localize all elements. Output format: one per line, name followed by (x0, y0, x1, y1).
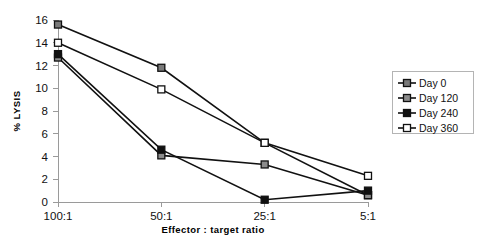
legend-marker (404, 80, 411, 87)
data-point-marker (55, 51, 62, 58)
x-tick-label: 5:1 (360, 210, 376, 222)
y-tick-label: 4 (42, 151, 49, 163)
data-point-marker (55, 21, 62, 28)
legend-marker (404, 110, 411, 117)
legend-label: Day 360 (419, 122, 458, 134)
legend-label: Day 120 (419, 92, 458, 104)
data-point-marker (55, 39, 62, 46)
data-point-marker (158, 86, 165, 93)
data-point-marker (261, 139, 268, 146)
series-line (58, 54, 368, 200)
series-line (58, 43, 368, 176)
legend-label: Day 0 (419, 77, 447, 89)
legend-marker (404, 125, 411, 132)
y-tick-label: 8 (42, 105, 48, 117)
y-tick-label: 6 (42, 128, 48, 140)
x-axis-ticks (58, 202, 368, 207)
x-tick-label: 50:1 (150, 210, 172, 222)
data-point-marker (261, 196, 268, 203)
data-point-marker (365, 187, 372, 194)
x-tick-label: 100:1 (44, 210, 73, 222)
legend-marker (404, 95, 411, 102)
y-axis-title: % LYSIS (11, 90, 22, 131)
data-point-marker (158, 146, 165, 153)
legend-label: Day 240 (419, 107, 458, 119)
y-tick-label: 14 (35, 37, 48, 49)
x-axis-title: Effector : target ratio (161, 224, 264, 235)
y-tick-label: 12 (35, 60, 48, 72)
series-day-0 (55, 21, 372, 199)
legend-item-day-240[interactable]: Day 240 (398, 107, 458, 119)
series-day-360 (55, 39, 372, 179)
data-point-marker (365, 172, 372, 179)
data-point-marker (158, 64, 165, 71)
y-tick-label: 10 (35, 82, 48, 94)
chart-figure: 0246810121416 100:150:125:15:1 % LYSIS E… (0, 0, 488, 247)
legend-item-day-360[interactable]: Day 360 (398, 122, 458, 134)
y-tick-label: 16 (35, 14, 48, 26)
data-point-marker (261, 161, 268, 168)
series-day-120 (55, 54, 372, 199)
line-chart: 0246810121416 100:150:125:15:1 % LYSIS E… (0, 0, 488, 247)
x-tick-label: 25:1 (253, 210, 275, 222)
legend-item-day-0[interactable]: Day 0 (398, 77, 447, 89)
series-line (58, 25, 368, 196)
x-axis-category-labels: 100:150:125:15:1 (44, 210, 376, 222)
y-tick-label: 2 (42, 173, 48, 185)
series-day-240 (55, 51, 372, 204)
series-layer (55, 21, 372, 203)
chart-legend: Day 0Day 120Day 240Day 360 (393, 72, 474, 135)
legend-item-day-120[interactable]: Day 120 (398, 92, 458, 104)
y-tick-label: 0 (42, 196, 48, 208)
